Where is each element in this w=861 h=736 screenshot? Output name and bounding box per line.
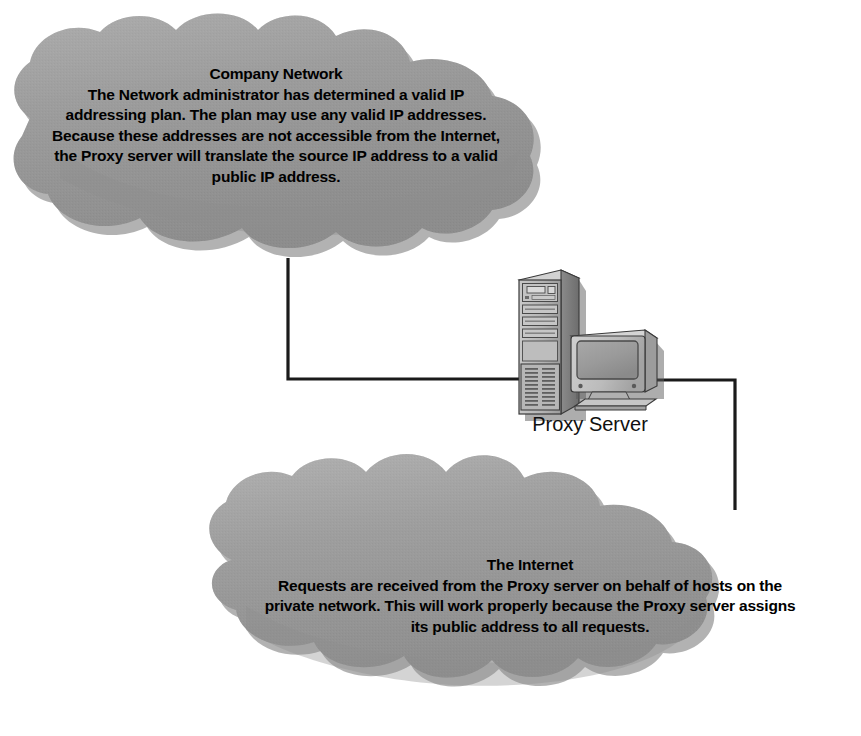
network-diagram-canvas: Company Network The Network administrato… [0,0,861,736]
link-company-to-proxy-hit[interactable] [282,255,522,385]
company-network-node[interactable] [0,14,540,266]
proxy-server-node[interactable] [512,268,667,418]
internet-node[interactable] [200,476,860,721]
link-proxy-to-internet-hit[interactable] [655,372,745,512]
